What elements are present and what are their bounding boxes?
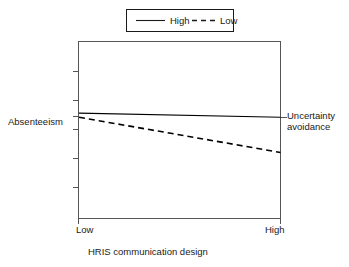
- chart-canvas: [0, 0, 349, 267]
- y-axis-label-right: Uncertainty avoidance: [287, 110, 347, 132]
- series-line-high: [79, 113, 281, 117]
- left-axis-ticks: [73, 72, 79, 188]
- y-axis-label-right-line2: avoidance: [287, 121, 347, 132]
- legend-label-low: Low: [220, 15, 237, 26]
- plot-frame: [79, 42, 281, 219]
- x-axis-tick-label-high: High: [265, 224, 285, 235]
- series-line-low: [79, 117, 281, 152]
- x-axis-tick-label-low: Low: [76, 224, 93, 235]
- interaction-plot-figure: High Low Absenteeism Uncertainty avoidan…: [0, 0, 349, 267]
- legend-label-high: High: [170, 15, 190, 26]
- x-axis-title: HRIS communication design: [88, 246, 208, 257]
- y-axis-label-left: Absenteeism: [8, 116, 63, 127]
- x-axis-ticks: [79, 219, 281, 225]
- y-axis-label-right-line1: Uncertainty: [287, 110, 347, 121]
